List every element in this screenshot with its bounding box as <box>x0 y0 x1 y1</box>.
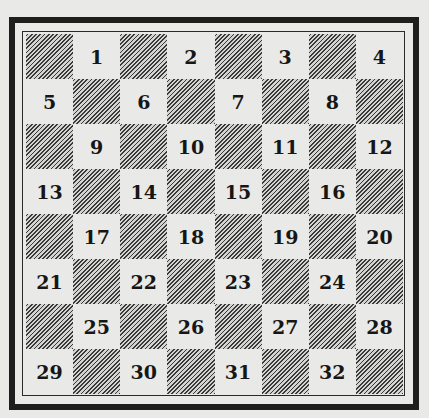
light-square: 13 <box>26 169 73 214</box>
dark-square <box>73 349 120 394</box>
light-square: 1 <box>73 34 120 79</box>
dark-square <box>120 214 167 259</box>
light-square: 32 <box>309 349 356 394</box>
dark-square <box>356 259 403 304</box>
square-number: 5 <box>43 91 56 113</box>
square-number: 19 <box>272 226 298 248</box>
dark-square <box>356 79 403 124</box>
light-square: 20 <box>356 214 403 259</box>
dark-square <box>26 124 73 169</box>
dark-square <box>73 79 120 124</box>
light-square: 22 <box>120 259 167 304</box>
dark-square <box>120 34 167 79</box>
square-number: 16 <box>319 181 345 203</box>
light-square: 29 <box>26 349 73 394</box>
square-number: 32 <box>319 361 345 383</box>
dark-square <box>309 304 356 349</box>
light-square: 10 <box>167 124 214 169</box>
dark-square <box>262 259 309 304</box>
square-number: 3 <box>279 46 292 68</box>
square-number: 27 <box>272 316 298 338</box>
light-square: 23 <box>215 259 262 304</box>
light-square: 5 <box>26 79 73 124</box>
dark-square <box>26 214 73 259</box>
square-number: 23 <box>225 271 251 293</box>
square-number: 20 <box>366 226 392 248</box>
dark-square <box>356 349 403 394</box>
light-square: 4 <box>356 34 403 79</box>
dark-square <box>215 304 262 349</box>
square-number: 28 <box>366 316 392 338</box>
square-number: 10 <box>178 136 204 158</box>
square-number: 25 <box>83 316 109 338</box>
square-number: 14 <box>131 181 157 203</box>
light-square: 12 <box>356 124 403 169</box>
square-number: 12 <box>366 136 392 158</box>
dark-square <box>167 169 214 214</box>
square-number: 18 <box>178 226 204 248</box>
dark-square <box>309 124 356 169</box>
square-number: 17 <box>83 226 109 248</box>
light-square: 14 <box>120 169 167 214</box>
dark-square <box>73 169 120 214</box>
square-number: 24 <box>319 271 345 293</box>
light-square: 31 <box>215 349 262 394</box>
light-square: 28 <box>356 304 403 349</box>
dark-square <box>309 214 356 259</box>
light-square: 8 <box>309 79 356 124</box>
dark-square <box>215 34 262 79</box>
light-square: 16 <box>309 169 356 214</box>
square-number: 21 <box>36 271 62 293</box>
square-number: 31 <box>225 361 251 383</box>
square-number: 7 <box>231 91 244 113</box>
dark-square <box>73 259 120 304</box>
square-number: 8 <box>326 91 339 113</box>
light-square: 24 <box>309 259 356 304</box>
dark-square <box>120 304 167 349</box>
dark-square <box>120 124 167 169</box>
dark-square <box>262 349 309 394</box>
light-square: 15 <box>215 169 262 214</box>
square-number: 11 <box>272 136 298 158</box>
dark-square <box>167 259 214 304</box>
light-square: 7 <box>215 79 262 124</box>
square-number: 13 <box>36 181 62 203</box>
dark-square <box>262 79 309 124</box>
light-square: 21 <box>26 259 73 304</box>
light-square: 19 <box>262 214 309 259</box>
square-number: 6 <box>137 91 150 113</box>
dark-square <box>167 79 214 124</box>
square-number: 2 <box>184 46 197 68</box>
square-number: 22 <box>131 271 157 293</box>
square-number: 30 <box>131 361 157 383</box>
square-number: 26 <box>178 316 204 338</box>
dark-square <box>167 349 214 394</box>
light-square: 18 <box>167 214 214 259</box>
square-number: 29 <box>36 361 62 383</box>
dark-square <box>26 34 73 79</box>
light-square: 2 <box>167 34 214 79</box>
dark-square <box>215 124 262 169</box>
square-number: 15 <box>225 181 251 203</box>
dark-square <box>262 169 309 214</box>
dark-square <box>356 169 403 214</box>
light-square: 11 <box>262 124 309 169</box>
dark-square <box>215 214 262 259</box>
square-number: 4 <box>373 46 386 68</box>
light-square: 6 <box>120 79 167 124</box>
square-number: 9 <box>90 136 103 158</box>
light-square: 26 <box>167 304 214 349</box>
light-square: 9 <box>73 124 120 169</box>
dark-square <box>26 304 73 349</box>
dark-square <box>309 34 356 79</box>
light-square: 30 <box>120 349 167 394</box>
light-square: 17 <box>73 214 120 259</box>
checkerboard: 1 2 3 4 5 6 7 8 9 10 11 12 13 14 15 16 1… <box>26 34 403 394</box>
light-square: 27 <box>262 304 309 349</box>
square-number: 1 <box>90 46 103 68</box>
light-square: 3 <box>262 34 309 79</box>
light-square: 25 <box>73 304 120 349</box>
